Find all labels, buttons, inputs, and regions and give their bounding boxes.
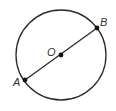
circle-diagram: AOB (0, 0, 116, 111)
label-o: O (47, 46, 56, 58)
point-b (95, 26, 100, 31)
point-a (23, 78, 28, 83)
point-o (59, 53, 64, 58)
label-a: A (12, 76, 20, 88)
label-b: B (100, 16, 107, 28)
